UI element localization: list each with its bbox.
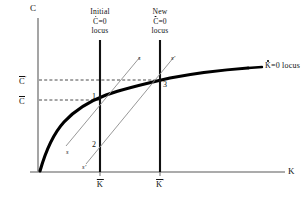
saddle-path-s-line xyxy=(66,57,140,146)
x-tick-label-k-bar-prime: K' xyxy=(156,177,164,189)
point-label-3: 3 xyxy=(163,80,167,89)
x-axis-label: K xyxy=(288,166,295,177)
c-bar-base: C xyxy=(19,96,25,106)
k-dot-zero-locus-curve xyxy=(40,68,248,171)
initial-locus-line-2: C=0 xyxy=(90,17,110,27)
c-dot-symbol: C xyxy=(93,17,98,27)
y-tick-label-c-bar: C xyxy=(19,94,25,106)
phase-diagram-figure: C K Initial C=0 locus New C=0 locus K=0 … xyxy=(0,0,301,199)
initial-locus-equals-zero: =0 xyxy=(98,17,106,26)
point-label-2: 2 xyxy=(92,140,96,149)
k-dot-symbol: K xyxy=(265,61,271,70)
k-locus-equals-zero-text: =0 locus xyxy=(271,61,300,70)
k-bar-prime-base: K xyxy=(156,179,162,189)
k-bar-prime-mark: ' xyxy=(162,177,163,185)
new-locus-equals-zero: =0 xyxy=(158,17,166,26)
c-dot-symbol: C xyxy=(153,17,158,27)
new-locus-line-3: locus xyxy=(151,26,168,36)
saddle-path-s-label-upper: s xyxy=(138,54,141,62)
c-bar-prime-mark: ' xyxy=(25,74,26,82)
k-locus-label-leader xyxy=(248,67,262,68)
initial-locus-line-3: locus xyxy=(90,26,110,36)
k-dot-zero-locus-label: K=0 locus xyxy=(265,61,300,70)
x-tick-label-k-bar: K xyxy=(97,177,103,189)
saddle-path-s-label-lower: s xyxy=(66,148,69,156)
k-bar-base: K xyxy=(97,179,103,189)
new-locus-line-2: C=0 xyxy=(151,17,168,27)
c-bar-prime-base: C xyxy=(19,76,25,86)
point-label-1: 1 xyxy=(92,92,96,101)
y-axis-label: C xyxy=(30,3,36,14)
saddle-path-s-prime-label-upper: s' xyxy=(171,54,175,62)
new-c-dot-zero-locus-label: New C=0 locus xyxy=(151,7,168,36)
y-tick-label-c-bar-prime: C' xyxy=(19,74,26,86)
initial-c-dot-zero-locus-label: Initial C=0 locus xyxy=(90,7,110,36)
initial-locus-line-1: Initial xyxy=(90,7,110,17)
saddle-path-s-prime-label-lower: s' xyxy=(82,163,86,171)
